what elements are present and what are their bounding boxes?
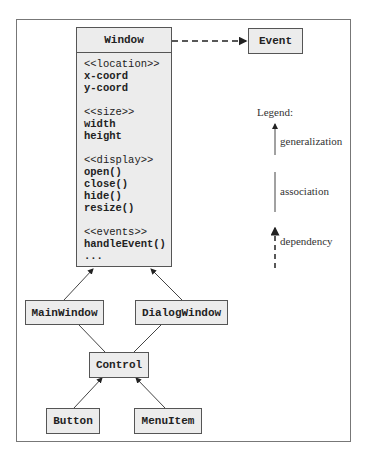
menuitem-class-box: MenuItem [134, 408, 202, 434]
stereotype-location: <<location>> [84, 58, 171, 70]
association-mainwindow-control [79, 325, 105, 352]
stereotype-display: <<display>> [84, 154, 171, 166]
legend-association-label: association [280, 185, 329, 197]
event-class-box: Event [248, 28, 303, 54]
mainwindow-class-box: MainWindow [25, 300, 104, 325]
control-class-box: Control [89, 352, 149, 378]
attr-height: height [84, 130, 171, 142]
method-hide: hide() [84, 190, 171, 202]
button-class-box: Button [46, 408, 100, 434]
connector-layer [0, 0, 366, 453]
generalization-arrow-mainwindow [64, 269, 93, 300]
size-group: <<size>> width height [84, 106, 171, 142]
window-class-title: Window [77, 28, 171, 53]
attr-y-coord: y-coord [84, 82, 171, 94]
window-class-box: Window <<location>> x-coord y-coord <<si… [76, 27, 172, 267]
legend-dependency-label: dependency [280, 235, 333, 247]
method-handle-event: handleEvent() [84, 238, 171, 250]
attr-x-coord: x-coord [84, 70, 171, 82]
dialogwindow-class-box: DialogWindow [135, 300, 228, 325]
method-resize: resize() [84, 202, 171, 214]
generalization-arrow-dialogwindow [151, 269, 182, 300]
generalization-arrow-menuitem [136, 378, 165, 408]
ellipsis: ... [84, 250, 171, 262]
generalization-arrow-button [74, 378, 102, 408]
display-group: <<display>> open() close() hide() resize… [84, 154, 171, 214]
events-group: <<events>> handleEvent() ... [84, 226, 171, 262]
stereotype-size: <<size>> [84, 106, 171, 118]
legend-generalization-label: generalization [280, 135, 342, 147]
association-dialogwindow-control [134, 325, 161, 352]
legend-title: Legend: [257, 106, 293, 118]
method-close: close() [84, 178, 171, 190]
attr-width: width [84, 118, 171, 130]
location-group: <<location>> x-coord y-coord [84, 58, 171, 94]
method-open: open() [84, 166, 171, 178]
window-class-attributes: <<location>> x-coord y-coord <<size>> wi… [77, 53, 171, 262]
stereotype-events: <<events>> [84, 226, 171, 238]
